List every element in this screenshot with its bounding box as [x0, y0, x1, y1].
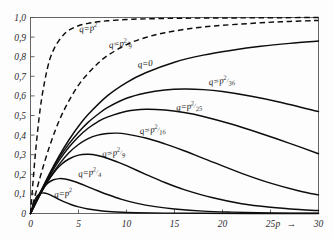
y-tick-label: 1,0	[14, 13, 26, 23]
curve-label-0: q=p2	[78, 21, 98, 35]
y-tick-label: 0,3	[14, 150, 26, 160]
svg-text:q=p2⁄9: q=p2⁄9	[101, 145, 126, 161]
curve-label-3: q=p2⁄36	[208, 73, 236, 90]
x-tick-label: 20	[218, 219, 228, 229]
curve-5	[31, 133, 319, 213]
svg-text:q=p2⁄16: q=p2⁄16	[139, 122, 167, 139]
y-tick-label: 0,2	[14, 170, 26, 180]
x-tick-label: 10	[122, 219, 132, 229]
x-tick-label: 0	[28, 219, 33, 229]
y-tick-label: 0,8	[14, 52, 26, 62]
curve-label-7: q=p2⁄4	[77, 164, 102, 180]
y-tick-label: 0,1	[14, 189, 26, 199]
curve-2	[31, 41, 319, 213]
x-tick-label: 5	[76, 219, 81, 229]
y-tick-label: 0	[21, 209, 26, 219]
svg-text:q=p2: q=p2	[53, 186, 73, 200]
curve-label-2: q=0	[137, 58, 154, 70]
curve-paths	[31, 18, 319, 214]
x-tick-label: 15	[170, 219, 180, 229]
svg-text:q=p2⁄36: q=p2⁄36	[208, 73, 236, 90]
curve-label-8: q=p2	[53, 186, 73, 200]
x-tick-label: 30	[313, 219, 324, 229]
y-tick-label: 0,4	[14, 131, 26, 141]
curve-label-1: q=p2⁄9	[108, 36, 133, 52]
y-tick-label: 0,9	[14, 33, 26, 43]
curve-4	[31, 109, 319, 213]
line-chart: 00,10,20,30,40,50,60,70,80,91,0 05101520…	[0, 0, 333, 239]
y-tick-label: 0,6	[14, 91, 26, 101]
x-axis-title-text: p	[275, 219, 281, 229]
x-tick-label: 25	[266, 219, 276, 229]
y-axis-ticks: 00,10,20,30,40,50,60,70,80,91,0	[14, 13, 34, 219]
svg-text:q=p2⁄25: q=p2⁄25	[175, 98, 203, 115]
y-tick-label: 0,7	[14, 72, 27, 82]
curve-label-6: q=p2⁄9	[101, 145, 126, 161]
x-axis-arrow-icon: →	[287, 219, 297, 229]
svg-text:q=0: q=0	[137, 58, 154, 70]
svg-text:q=p2⁄9: q=p2⁄9	[108, 36, 133, 52]
curve-label-5: q=p2⁄16	[139, 122, 167, 139]
curve-label-4: q=p2⁄25	[175, 98, 203, 115]
x-axis-title: p→	[275, 219, 297, 229]
curve-3	[31, 89, 319, 213]
chart-container: 00,10,20,30,40,50,60,70,80,91,0 05101520…	[0, 0, 333, 239]
y-tick-label: 0,5	[14, 111, 26, 121]
svg-text:q=p2: q=p2	[78, 21, 98, 35]
svg-text:q=p2⁄4: q=p2⁄4	[77, 164, 102, 180]
